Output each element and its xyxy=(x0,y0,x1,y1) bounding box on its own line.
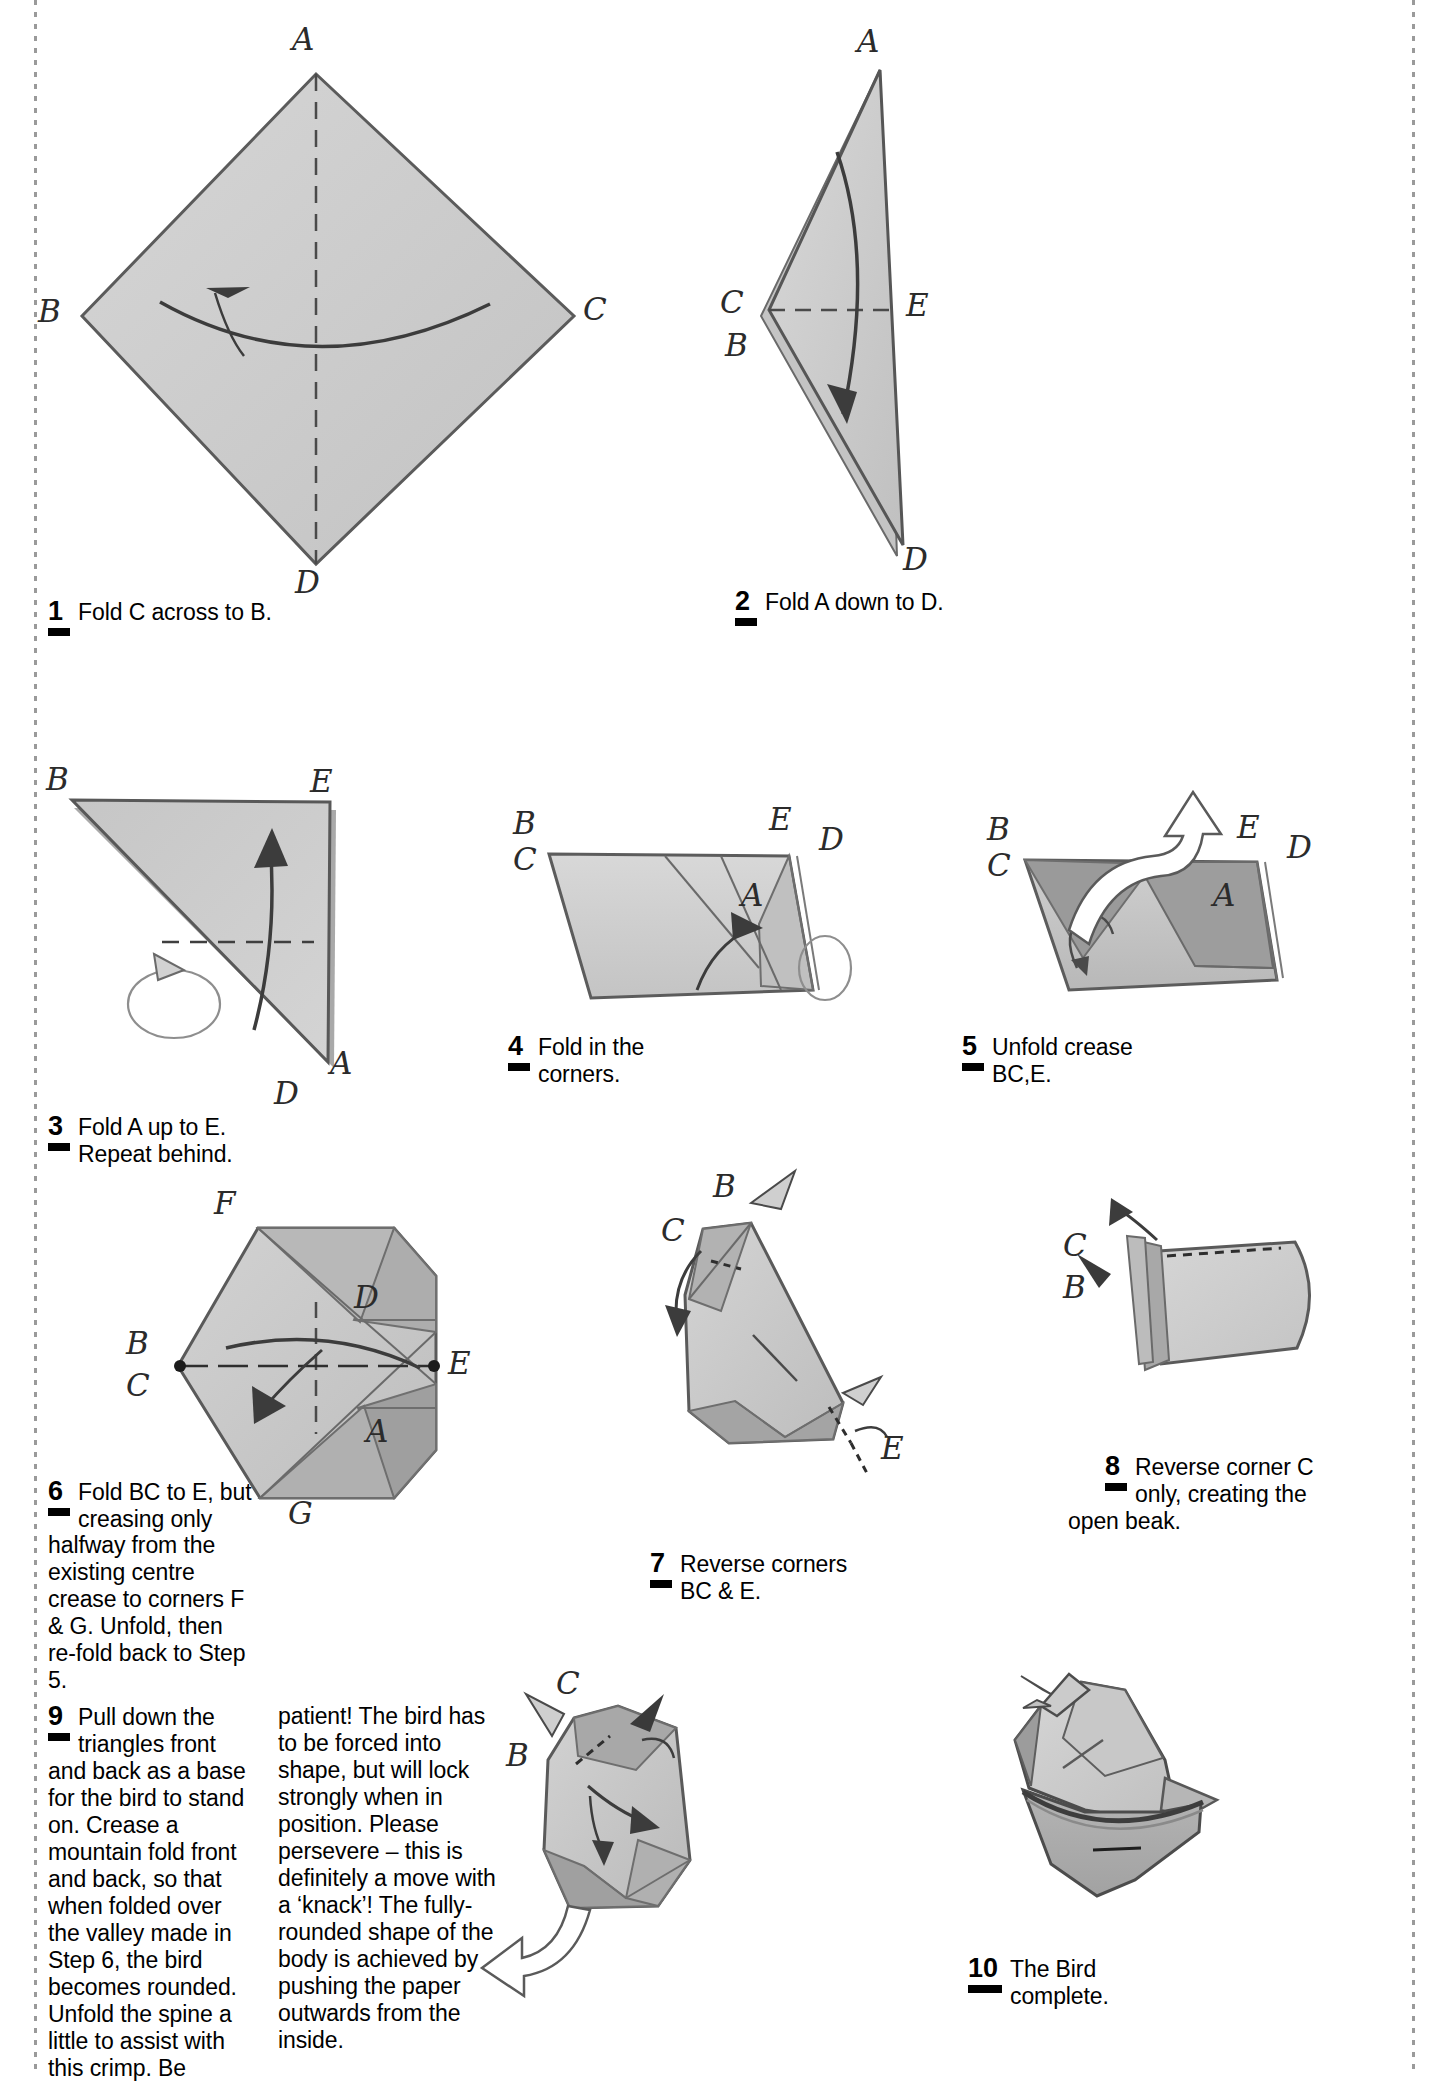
step-text-8: Reverse corner C only, creating the xyxy=(1135,1453,1314,1508)
label-point-d: D xyxy=(903,544,928,575)
step-number-5: 5 xyxy=(962,1033,992,1071)
figure-step-6: F D B C E A G xyxy=(168,1220,468,1510)
step-bar-1 xyxy=(48,628,70,636)
label-point-e: E xyxy=(881,1433,904,1464)
step-number-9: 9 xyxy=(48,1703,78,1741)
step-text-5: Unfold crease BC,E. xyxy=(992,1033,1133,1088)
label-point-d: D xyxy=(819,824,844,855)
label-point-a: A xyxy=(330,1048,352,1079)
label-point-b: B xyxy=(126,1328,149,1359)
label-point-d: D xyxy=(1287,832,1312,863)
step-text-1: Fold C across to B. xyxy=(78,598,272,626)
figure-step-8: C B xyxy=(1105,1230,1335,1400)
step-number-8: 8 xyxy=(1105,1453,1135,1491)
step-bar-3 xyxy=(48,1143,70,1151)
step-number-3: 3 xyxy=(48,1113,78,1151)
caption-step-2: 2 Fold A down to D. xyxy=(735,588,944,626)
caption-step-6: 6 Fold BC to E, but creasing only xyxy=(48,1478,251,1533)
label-point-a: A xyxy=(292,24,314,55)
step-bar-5 xyxy=(962,1063,984,1071)
page-edge-right xyxy=(1412,0,1415,2070)
label-point-a: A xyxy=(857,26,879,57)
label-point-a: A xyxy=(366,1416,388,1447)
label-point-b: B xyxy=(713,1171,736,1202)
label-point-e: E xyxy=(769,804,792,835)
step-number-4: 4 xyxy=(508,1033,538,1071)
step-text-5-line2: BC,E. xyxy=(992,1061,1133,1088)
step-text-9-line2: triangles front xyxy=(78,1731,216,1758)
step-number-1: 1 xyxy=(48,598,78,636)
step-body-6: halfway from the existing centre crease … xyxy=(48,1532,256,1694)
step-text-9: Pull down the triangles front xyxy=(78,1703,216,1758)
step-text-4-line1: Fold in the xyxy=(538,1034,644,1061)
page-edge-left xyxy=(34,0,37,2070)
label-point-c: C xyxy=(126,1370,150,1401)
label-point-c: C xyxy=(513,844,537,875)
label-point-d: D xyxy=(295,567,320,598)
step-body-9-column1: and back as a base for the bird to stand… xyxy=(48,1758,248,2082)
step-body-9-column2: patient! The bird has to be forced into … xyxy=(278,1703,500,2054)
label-point-b: B xyxy=(38,296,61,327)
label-point-a: A xyxy=(741,880,763,911)
step-text-3: Fold A up to E. Repeat behind. xyxy=(78,1113,233,1168)
step-text-7-line1: Reverse corners xyxy=(680,1551,847,1578)
label-point-d: D xyxy=(274,1078,299,1109)
step-number-6: 6 xyxy=(48,1478,78,1516)
label-point-e: E xyxy=(1237,812,1260,843)
label-point-c: C xyxy=(1063,1230,1087,1261)
step-bar-2 xyxy=(735,618,757,626)
step-text-4: Fold in the corners. xyxy=(538,1033,644,1088)
step-body-8: open beak. xyxy=(1068,1508,1298,1535)
step-bar-4 xyxy=(508,1063,530,1071)
step-text-10-line1: The Bird xyxy=(1010,1956,1109,1983)
label-point-c: C xyxy=(987,850,1011,881)
caption-step-4: 4 Fold in the corners. xyxy=(508,1033,644,1088)
step-number-7: 7 xyxy=(650,1550,680,1588)
label-point-d: D xyxy=(354,1282,379,1313)
label-point-b: B xyxy=(506,1740,529,1771)
caption-step-1: 1 Fold C across to B. xyxy=(48,598,272,636)
figure-step-5: B C E D A xyxy=(1025,848,1325,1028)
label-point-f: F xyxy=(214,1188,236,1219)
step-bar-9 xyxy=(48,1733,70,1741)
caption-step-10: 10 The Bird complete. xyxy=(968,1955,1109,2010)
label-point-b: B xyxy=(725,330,748,361)
step-text-4-line2: corners. xyxy=(538,1061,644,1088)
label-point-b: B xyxy=(987,814,1010,845)
step-text-3-line2: Repeat behind. xyxy=(78,1141,233,1168)
step-text-6-line1: Fold BC to E, but xyxy=(78,1479,251,1506)
step-bar-8 xyxy=(1105,1483,1127,1491)
label-point-b: B xyxy=(1063,1272,1086,1303)
step-number-10: 10 xyxy=(968,1955,1010,1993)
caption-step-7: 7 Reverse corners BC & E. xyxy=(650,1550,847,1605)
label-point-e: E xyxy=(310,766,333,797)
label-point-e: E xyxy=(906,290,929,321)
step-text-2: Fold A down to D. xyxy=(765,588,944,616)
label-point-a: A xyxy=(1213,880,1235,911)
caption-step-8: 8 Reverse corner C only, creating the xyxy=(1105,1453,1314,1508)
label-point-c: C xyxy=(661,1215,685,1246)
step-text-6: Fold BC to E, but creasing only xyxy=(78,1478,251,1533)
caption-step-9: 9 Pull down the triangles front xyxy=(48,1703,216,1758)
label-point-c: C xyxy=(720,287,744,318)
label-point-c: C xyxy=(556,1668,580,1699)
step-text-6-line2: creasing only xyxy=(78,1506,251,1533)
step-text-7-line2: BC & E. xyxy=(680,1578,847,1605)
step-text-10: The Bird complete. xyxy=(1010,1955,1109,2010)
figure-step-3: B E A D xyxy=(78,790,418,1090)
step-text-10-line2: complete. xyxy=(1010,1983,1109,2010)
figure-step-4: B C E D A xyxy=(545,840,885,1020)
figure-step-7: B C E xyxy=(655,1215,935,1505)
step-text-3-line1: Fold A up to E. xyxy=(78,1114,233,1141)
step-bar-10 xyxy=(968,1985,1002,1993)
figure-step-10 xyxy=(985,1660,1275,1950)
caption-step-3: 3 Fold A up to E. Repeat behind. xyxy=(48,1113,233,1168)
step-text-8-line1: Reverse corner C xyxy=(1135,1454,1314,1481)
label-point-e: E xyxy=(448,1348,471,1379)
step-bar-6 xyxy=(48,1508,70,1516)
step-text-5-line1: Unfold crease xyxy=(992,1034,1133,1061)
label-point-b: B xyxy=(46,764,69,795)
label-point-c: C xyxy=(583,294,607,325)
figure-step-1: A B C D xyxy=(60,60,590,580)
caption-step-5: 5 Unfold crease BC,E. xyxy=(962,1033,1133,1088)
